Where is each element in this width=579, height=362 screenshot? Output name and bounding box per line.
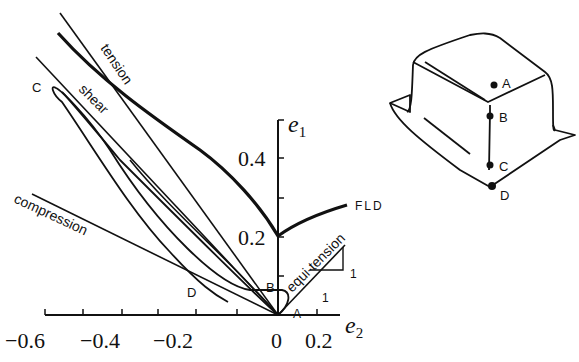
- point-label-b: B: [266, 280, 275, 295]
- slope-rise-label: 1: [350, 267, 357, 281]
- slope-run-label: 1: [322, 291, 329, 305]
- y-axis: [278, 120, 284, 315]
- inset-point-c: [487, 162, 494, 169]
- x-tick-label: 0: [271, 328, 282, 353]
- point-label-c: C: [32, 80, 41, 95]
- y-axis-title: e1: [288, 111, 306, 140]
- cup-sketch-inset: [390, 33, 575, 187]
- fld-label: FLD: [355, 199, 384, 213]
- point-label-d: D: [187, 285, 196, 300]
- forming-limit-chart: −0.6 −0.4 −0.2 0 0.2 0.4 0.2 e1 e2 1 1 t…: [0, 0, 579, 362]
- tension-label: tension: [98, 41, 137, 87]
- x-tick-label: −0.6: [5, 328, 45, 353]
- inset-point-b: [487, 113, 494, 120]
- inset-label-b: B: [499, 110, 508, 125]
- x-tick-label: 0.2: [305, 328, 333, 353]
- x-tick-label: −0.4: [80, 328, 120, 353]
- inset-label-a: A: [502, 76, 511, 91]
- inset-point-d: [488, 182, 496, 190]
- inset-label-d: D: [500, 188, 509, 203]
- equi-tension-label: equi-tension: [283, 230, 348, 295]
- y-tick-label: 0.4: [238, 146, 266, 171]
- x-axis-title: e2: [345, 312, 363, 341]
- inset-label-c: C: [499, 159, 508, 174]
- inset-point-a: [491, 82, 498, 89]
- y-tick-label: 0.2: [238, 225, 266, 250]
- compression-label: compression: [12, 190, 91, 238]
- x-tick-label: −0.2: [153, 328, 193, 353]
- point-label-a: A: [293, 307, 301, 321]
